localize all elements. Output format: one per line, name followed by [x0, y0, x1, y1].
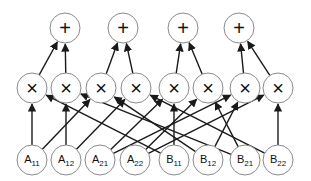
sum-node-s4: +	[224, 13, 254, 43]
sum-node-s3: +	[168, 13, 198, 43]
sum-node-s2: +	[108, 13, 138, 43]
graph-svg: ++++××××××××A11A12A21A22B11B12B21B22	[0, 0, 311, 181]
edge-m3-to-s2	[106, 43, 117, 74]
edge-m7-to-s4	[241, 44, 244, 73]
product-node-m6: ×	[193, 73, 223, 103]
times-icon: ×	[130, 77, 142, 99]
product-node-m3: ×	[86, 73, 116, 103]
input-node-A12: A12	[51, 145, 81, 175]
plus-icon: +	[177, 17, 189, 39]
times-icon: ×	[272, 77, 284, 99]
plus-icon: +	[59, 17, 71, 39]
edge-m8-to-s4	[248, 41, 270, 75]
plus-icon: +	[117, 17, 129, 39]
computation-graph: ++++××××××××A11A12A21A22B11B12B21B22	[0, 0, 311, 181]
input-node-B22: B22	[263, 145, 293, 175]
edge-B12-to-m3	[114, 97, 195, 152]
sum-node-s1: +	[50, 13, 80, 43]
plus-icon: +	[233, 17, 245, 39]
times-icon: ×	[168, 77, 180, 99]
times-icon: ×	[26, 77, 38, 99]
times-icon: ×	[239, 77, 251, 99]
product-node-m4: ×	[121, 73, 151, 103]
input-node-A22: A22	[120, 145, 150, 175]
edge-A21-to-m7	[113, 95, 230, 153]
input-node-B11: B11	[159, 145, 189, 175]
input-node-A11: A11	[17, 145, 47, 175]
product-node-m5: ×	[159, 73, 189, 103]
product-node-m7: ×	[230, 73, 260, 103]
input-node-A21: A21	[85, 145, 115, 175]
product-node-m1: ×	[17, 73, 47, 103]
edge-m4-to-s2	[126, 44, 132, 74]
input-node-B12: B12	[193, 145, 223, 175]
edge-B11-to-m1	[46, 95, 160, 153]
times-icon: ×	[202, 77, 214, 99]
times-icon: ×	[60, 77, 72, 99]
edge-m5-to-s3	[176, 44, 180, 73]
product-node-m8: ×	[263, 73, 293, 103]
input-node-B21: B21	[230, 145, 260, 175]
edge-m6-to-s3	[189, 43, 202, 74]
product-node-m2: ×	[51, 73, 81, 103]
edge-m1-to-s1	[39, 42, 57, 75]
times-icon: ×	[95, 77, 107, 99]
